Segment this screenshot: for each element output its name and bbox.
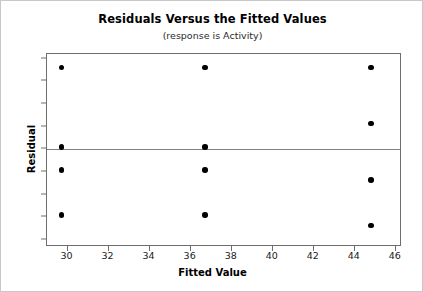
x-axis-tick-label: 42 bbox=[293, 250, 333, 261]
x-axis-tick-label: 34 bbox=[129, 250, 169, 261]
data-point bbox=[368, 223, 374, 229]
data-point bbox=[202, 144, 208, 150]
zero-reference-line bbox=[47, 149, 400, 150]
data-point bbox=[202, 65, 208, 71]
x-axis-tick-label: 46 bbox=[375, 250, 415, 261]
data-point bbox=[368, 121, 374, 127]
x-axis-tick-label: 36 bbox=[170, 250, 210, 261]
plot-frame bbox=[46, 53, 401, 246]
data-point bbox=[368, 65, 374, 71]
y-axis-label: Residual bbox=[26, 125, 37, 173]
data-point bbox=[202, 212, 208, 218]
plot-area bbox=[47, 54, 400, 245]
data-point bbox=[368, 177, 374, 183]
x-axis-tick-label: 30 bbox=[47, 250, 87, 261]
x-axis-tick-label: 38 bbox=[211, 250, 251, 261]
x-axis-tick-label: 44 bbox=[334, 250, 374, 261]
chart-subtitle: (response is Activity) bbox=[1, 30, 423, 41]
x-axis-tick-label: 40 bbox=[252, 250, 292, 261]
x-axis-tick-label: 32 bbox=[88, 250, 128, 261]
data-point bbox=[202, 167, 208, 173]
residual-plot-figure: Residuals Versus the Fitted Values (resp… bbox=[0, 0, 423, 292]
data-point bbox=[59, 212, 65, 218]
data-point bbox=[59, 167, 65, 173]
data-point bbox=[59, 65, 65, 71]
x-axis-label: Fitted Value bbox=[1, 267, 423, 278]
data-point bbox=[59, 144, 65, 150]
chart-title: Residuals Versus the Fitted Values bbox=[1, 12, 423, 26]
